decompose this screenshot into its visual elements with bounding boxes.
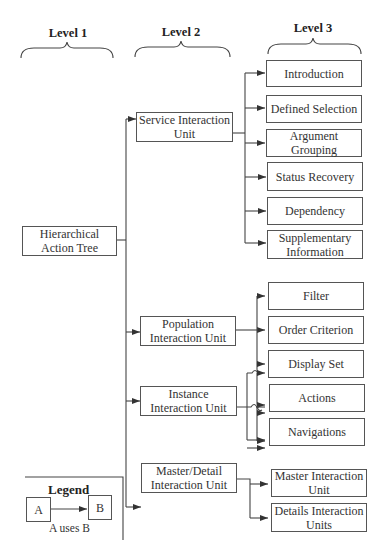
node-supplementary-information: Supplementary Information (267, 230, 363, 259)
legend-box-b: B (88, 495, 112, 520)
node-instance-interaction-unit: Instance Interaction Unit (140, 386, 237, 416)
node-filter: Filter (268, 282, 364, 310)
node-defined-selection: Defined Selection (266, 95, 362, 123)
node-master-interaction-unit: Master Interaction Unit (271, 469, 367, 497)
node-details-interaction-units: Details Interaction Units (271, 503, 367, 532)
node-actions: Actions (269, 384, 365, 412)
node-service-interaction-unit: Service Interaction Unit (136, 112, 233, 142)
node-display-set: Display Set (268, 350, 364, 378)
node-master-detail-interaction-unit: Master/Detail Interaction Unit (141, 463, 237, 493)
node-status-recovery: Status Recovery (267, 162, 363, 191)
node-introduction: Introduction (266, 60, 362, 87)
node-hierarchical-action-tree: Hierarchical Action Tree (22, 226, 117, 256)
node-navigations: Navigations (269, 418, 365, 446)
legend-caption: A uses B (49, 522, 90, 534)
node-order-criterion: Order Criterion (268, 316, 364, 344)
node-dependency: Dependency (267, 197, 363, 225)
node-population-interaction-unit: Population Interaction Unit (140, 316, 236, 346)
node-argument-grouping: Argument Grouping (266, 129, 362, 157)
legend-box-a: A (26, 497, 51, 522)
legend-title: Legend (48, 482, 89, 498)
